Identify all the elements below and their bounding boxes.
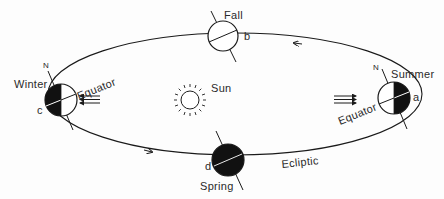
sun-icon: [174, 84, 206, 116]
orbit-arrow-top: [294, 43, 302, 44]
winter-equator-label: Equator: [75, 75, 117, 101]
summer-letter: a: [413, 91, 420, 103]
ecliptic-label: Ecliptic: [281, 154, 319, 170]
summer-north-label: N: [373, 63, 379, 72]
diagram-canvas: Sun Winter c N Equator Summer a N Equato…: [0, 0, 444, 199]
winter-north-label: N: [43, 61, 49, 70]
summer-label: Summer: [391, 68, 434, 80]
summer-equator-label: Equator: [336, 100, 378, 126]
winter-letter: c: [37, 104, 43, 116]
spring-letter: d: [205, 160, 211, 172]
earth-winter: [45, 71, 77, 130]
fall-label: Fall: [224, 9, 243, 21]
fall-letter: b: [244, 30, 250, 42]
sun-label: Sun: [211, 82, 231, 94]
seasons-diagram: Sun Winter c N Equator Summer a N Equato…: [0, 0, 444, 199]
spring-label: Spring: [200, 180, 234, 192]
sunlight-arrows-right: [334, 96, 356, 103]
orbit-arrow-bottom: [144, 150, 152, 152]
ecliptic-orbit: [48, 33, 422, 155]
winter-label: Winter: [14, 78, 48, 90]
